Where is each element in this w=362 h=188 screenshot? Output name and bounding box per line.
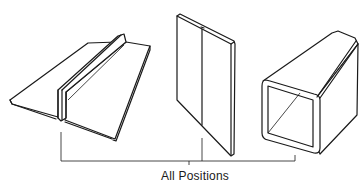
flanged-edge-joint-drawing bbox=[10, 34, 150, 141]
butt-joint-plate-drawing bbox=[177, 14, 235, 156]
square-tube-drawing bbox=[262, 31, 358, 154]
bracket-connector bbox=[61, 132, 295, 165]
welding-positions-figure: All Positions bbox=[0, 0, 362, 188]
figure-drawing bbox=[0, 0, 362, 188]
figure-caption: All Positions bbox=[0, 169, 362, 183]
